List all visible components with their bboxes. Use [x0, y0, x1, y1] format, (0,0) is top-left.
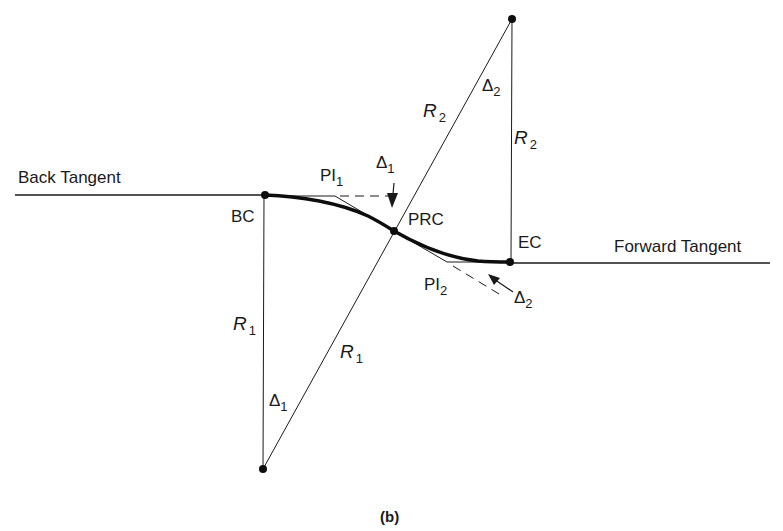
back-tangent-label: Back Tangent	[18, 168, 121, 187]
bc-point	[261, 191, 269, 199]
prc-point	[390, 227, 398, 235]
pi1-label: PI1	[320, 166, 343, 189]
reverse-curve	[265, 195, 510, 262]
center-point-2	[508, 15, 516, 23]
radius-line-through-prc	[263, 19, 512, 469]
pi2-label: PI2	[424, 275, 447, 298]
r1-diagonal-label: R1	[340, 341, 363, 366]
delta2-center-label: Δ2	[482, 76, 501, 99]
delta1-pi-label: Δ1	[376, 153, 395, 176]
center-point-1	[259, 465, 267, 473]
prc-label: PRC	[408, 210, 444, 229]
reverse-curve-diagram: Back Tangent Forward Tangent BC PRC EC P…	[0, 0, 783, 531]
ec-label: EC	[518, 233, 542, 252]
r2-diagonal-label: R2	[423, 100, 446, 125]
r2-vertical-label: R2	[514, 127, 537, 152]
delta1-center-label: Δ1	[269, 391, 288, 414]
forward-tangent-label: Forward Tangent	[614, 237, 742, 256]
r1-vertical-label: R1	[233, 313, 256, 338]
ec-point	[506, 258, 514, 266]
delta1-arrow-icon	[387, 183, 398, 208]
delta2-pi-label: Δ2	[514, 288, 533, 311]
figure-caption: (b)	[380, 508, 399, 525]
bc-label: BC	[231, 207, 255, 226]
radius-r1-vertical	[263, 195, 264, 469]
radius-r2-vertical	[511, 19, 512, 262]
